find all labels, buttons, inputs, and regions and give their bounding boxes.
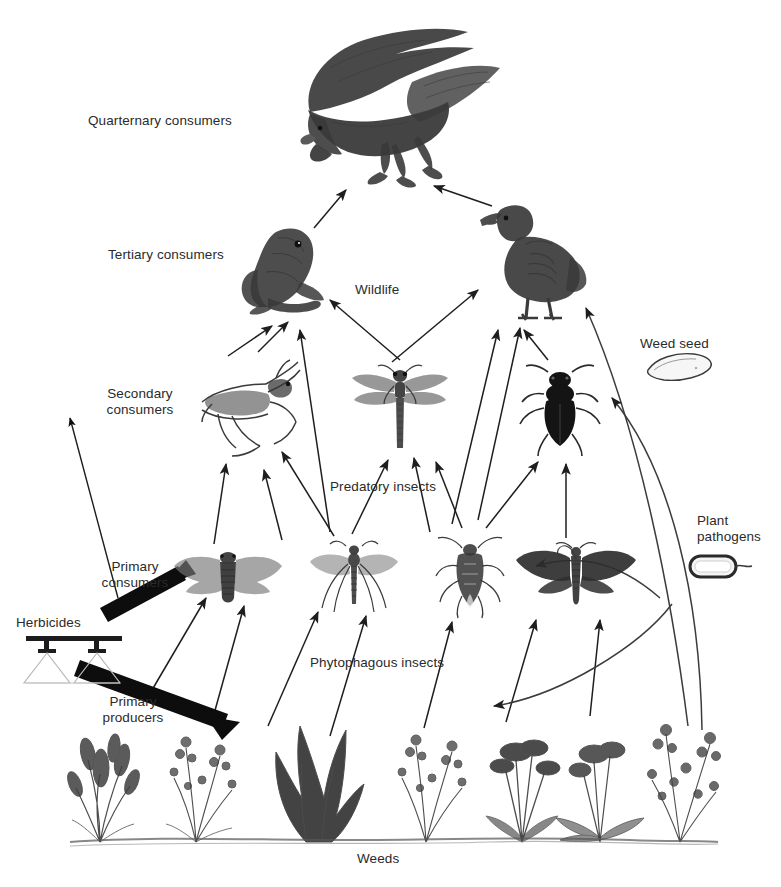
ground-beetle-illustration: [518, 364, 602, 458]
weed-seed-illustration: [646, 352, 714, 382]
trophic-label-primary-producers: Primary producers: [92, 694, 174, 726]
moth-illustration: [514, 542, 638, 616]
raptor-illustration: [292, 24, 504, 192]
trophic-label-tertiary: Tertiary consumers: [108, 247, 224, 263]
planthopper-illustration: [172, 548, 284, 612]
side-label-weed-seed: Weed seed: [640, 336, 709, 352]
partridge-illustration: [474, 198, 592, 322]
frog-illustration: [238, 218, 342, 322]
trophic-label-secondary: Secondary consumers: [95, 386, 185, 418]
caption-weeds: Weeds: [357, 851, 399, 867]
trophic-label-primary-consumers: Primary consumers: [92, 559, 178, 591]
plant-pathogen-illustration: [688, 552, 754, 582]
side-label-plant-pathogens: Plant pathogens: [697, 513, 777, 545]
dragonfly-illustration: [350, 364, 450, 456]
trophic-label-quaternary: Quarternary consumers: [88, 113, 232, 129]
crane-fly-illustration: [306, 540, 402, 618]
group-label-wildlife: Wildlife: [355, 282, 399, 298]
food-web-diagram: Quarternary consumers Tertiary consumers…: [0, 0, 781, 887]
shield-bug-illustration: [434, 536, 506, 620]
side-label-herbicides: Herbicides: [16, 615, 81, 631]
group-label-predatory-insects: Predatory insects: [330, 479, 436, 495]
mantis-illustration: [196, 358, 312, 462]
sprayer-boom-icon: [20, 628, 130, 686]
group-label-phytophagous-insects: Phytophagous insects: [310, 655, 444, 671]
